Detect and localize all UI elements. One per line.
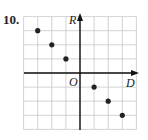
y-axis-label: R [69, 13, 76, 28]
x-axis-label: D [126, 76, 135, 91]
data-point [35, 28, 40, 33]
data-point [106, 99, 111, 104]
origin-label: O [69, 75, 78, 90]
data-point [49, 42, 54, 47]
data-point [63, 56, 68, 61]
data-point [120, 113, 125, 118]
data-point [92, 85, 97, 90]
